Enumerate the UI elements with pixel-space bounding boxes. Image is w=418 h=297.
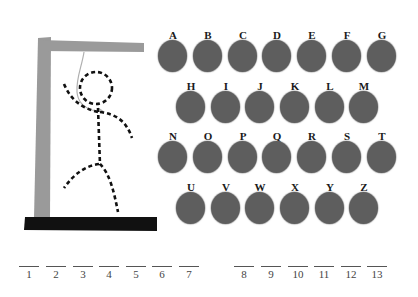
letter-button-e[interactable]: E xyxy=(297,29,327,75)
letter-button-c[interactable]: C xyxy=(228,29,258,75)
letter-circle[interactable] xyxy=(332,40,361,72)
gallows-beam xyxy=(40,40,144,52)
letter-button-o[interactable]: O xyxy=(193,130,223,176)
letter-circle[interactable] xyxy=(176,192,205,224)
letter-circle[interactable] xyxy=(193,40,222,72)
letter-button-n[interactable]: N xyxy=(158,130,188,176)
letter-slot-2: 2 xyxy=(46,266,66,280)
letter-button-q[interactable]: Q xyxy=(262,130,292,176)
figure-head xyxy=(80,72,112,104)
slot-number: 1 xyxy=(19,268,39,280)
letter-slot-1: 1 xyxy=(19,266,39,280)
letter-circle[interactable] xyxy=(280,192,309,224)
slot-number: 13 xyxy=(367,268,387,280)
letter-circle[interactable] xyxy=(211,192,240,224)
hangman-drawing xyxy=(0,0,160,240)
figure-left-leg xyxy=(64,164,99,188)
letter-button-k[interactable]: K xyxy=(280,80,310,126)
letter-button-p[interactable]: P xyxy=(228,130,258,176)
slot-blank-line xyxy=(152,266,172,267)
slot-number: 10 xyxy=(288,268,308,280)
letter-slot-8: 8 xyxy=(234,266,254,280)
slot-blank-line xyxy=(367,266,387,267)
letter-slot-13: 13 xyxy=(367,266,387,280)
letter-circle[interactable] xyxy=(158,40,187,72)
letter-circle[interactable] xyxy=(367,40,396,72)
slot-number: 8 xyxy=(234,268,254,280)
letter-button-m[interactable]: M xyxy=(349,80,379,126)
slot-blank-line xyxy=(179,266,199,267)
slot-number: 4 xyxy=(99,268,119,280)
letter-circle[interactable] xyxy=(280,91,309,123)
slot-blank-line xyxy=(234,266,254,267)
letter-button-x[interactable]: X xyxy=(280,181,310,227)
letter-circle[interactable] xyxy=(349,192,378,224)
letter-button-h[interactable]: H xyxy=(176,80,206,126)
letter-button-i[interactable]: I xyxy=(211,80,241,126)
letter-circle[interactable] xyxy=(332,141,361,173)
slot-blank-line xyxy=(288,266,308,267)
letter-button-d[interactable]: D xyxy=(262,29,292,75)
figure-body xyxy=(98,108,100,165)
slot-number: 3 xyxy=(73,268,93,280)
slot-number: 12 xyxy=(341,268,361,280)
letter-circle[interactable] xyxy=(211,91,240,123)
slot-blank-line xyxy=(73,266,93,267)
letter-button-y[interactable]: Y xyxy=(315,181,345,227)
letter-button-s[interactable]: S xyxy=(332,130,362,176)
letter-button-j[interactable]: J xyxy=(245,80,275,126)
letter-circle[interactable] xyxy=(315,91,344,123)
letter-button-u[interactable]: U xyxy=(176,181,206,227)
letter-circle[interactable] xyxy=(176,91,205,123)
slot-blank-line xyxy=(261,266,281,267)
letter-slot-10: 10 xyxy=(288,266,308,280)
letter-circle[interactable] xyxy=(297,40,326,72)
letter-circle[interactable] xyxy=(315,192,344,224)
slot-blank-line xyxy=(126,266,146,267)
slot-blank-line xyxy=(19,266,39,267)
letter-circle[interactable] xyxy=(245,91,274,123)
letter-circle[interactable] xyxy=(349,91,378,123)
letter-button-v[interactable]: V xyxy=(211,181,241,227)
letter-slot-5: 5 xyxy=(126,266,146,280)
letter-slot-4: 4 xyxy=(99,266,119,280)
letter-circle[interactable] xyxy=(297,141,326,173)
letter-button-b[interactable]: B xyxy=(193,29,223,75)
letter-slot-3: 3 xyxy=(73,266,93,280)
slot-blank-line xyxy=(314,266,334,267)
letter-button-t[interactable]: T xyxy=(367,130,397,176)
slot-number: 9 xyxy=(261,268,281,280)
letter-circle[interactable] xyxy=(262,141,291,173)
letter-circle[interactable] xyxy=(262,40,291,72)
slot-number: 6 xyxy=(152,268,172,280)
letter-slot-7: 7 xyxy=(179,266,199,280)
letter-circle[interactable] xyxy=(245,192,274,224)
letter-circle[interactable] xyxy=(193,141,222,173)
gallows-base xyxy=(24,217,157,231)
slot-blank-line xyxy=(46,266,66,267)
letter-button-w[interactable]: W xyxy=(245,181,275,227)
letter-circle[interactable] xyxy=(228,141,257,173)
slot-number: 5 xyxy=(126,268,146,280)
letter-circle[interactable] xyxy=(158,141,187,173)
slot-blank-line xyxy=(99,266,119,267)
letter-circle[interactable] xyxy=(367,141,396,173)
gallows-pole xyxy=(34,37,51,218)
figure-right-arm xyxy=(100,112,132,138)
letter-button-f[interactable]: F xyxy=(332,29,362,75)
letter-button-r[interactable]: R xyxy=(297,130,327,176)
slot-number: 2 xyxy=(46,268,66,280)
letter-button-l[interactable]: L xyxy=(315,80,345,126)
letter-button-z[interactable]: Z xyxy=(349,181,379,227)
letter-slot-11: 11 xyxy=(314,266,334,280)
letter-button-a[interactable]: A xyxy=(158,29,188,75)
slot-number: 11 xyxy=(314,268,334,280)
slot-blank-line xyxy=(341,266,361,267)
letter-slot-6: 6 xyxy=(152,266,172,280)
letter-button-g[interactable]: G xyxy=(367,29,397,75)
letter-slot-9: 9 xyxy=(261,266,281,280)
letter-circle[interactable] xyxy=(228,40,257,72)
letter-slot-12: 12 xyxy=(341,266,361,280)
slot-number: 7 xyxy=(179,268,199,280)
figure-right-leg xyxy=(100,164,118,212)
